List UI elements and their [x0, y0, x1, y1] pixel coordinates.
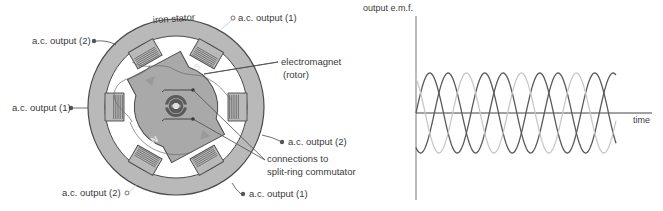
label-connections: connections to	[267, 153, 328, 164]
terminal-open-icon	[231, 16, 235, 20]
label-split-ring: split-ring commutator	[267, 166, 356, 177]
terminal-open-icon	[125, 191, 129, 195]
emf-chart: output e.m.f. time	[363, 3, 652, 200]
label-ac-output-2-right: a.c. output (2)	[288, 136, 347, 147]
label-rotor: (rotor)	[283, 69, 309, 80]
terminal-dot-icon	[280, 140, 284, 144]
generator-diagram: S N	[0, 0, 663, 211]
label-ac-output-1-bottom-right: a.c. output (1)	[249, 188, 308, 199]
stator-pole	[228, 93, 247, 121]
terminal-dot-icon	[241, 192, 245, 196]
label-ac-output-2-top-left: a.c. output (2)	[32, 35, 91, 46]
label-ac-output-1-left: a.c. output (1)	[12, 102, 71, 113]
x-axis-label: time	[633, 115, 650, 125]
label-ac-output-1-top: a.c. output (1)	[238, 12, 297, 23]
label-electromagnet: electromagnet	[281, 56, 342, 67]
y-axis-label: output e.m.f.	[363, 3, 413, 13]
label-ac-output-2-bottom-left: a.c. output (2)	[62, 187, 121, 198]
terminal-dot-icon	[92, 39, 96, 43]
